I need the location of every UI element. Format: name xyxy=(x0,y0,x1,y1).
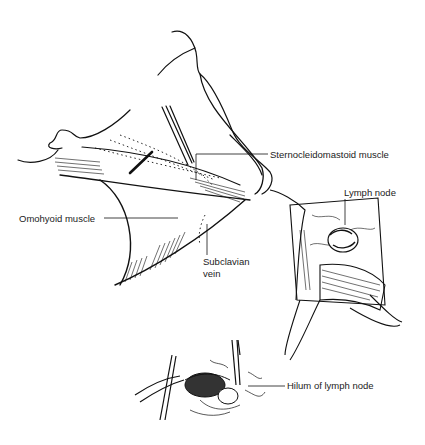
label-hilum: Hilum of lymph node xyxy=(287,380,374,391)
label-lymph-node: Lymph node xyxy=(344,187,396,198)
illustration-canvas: Sternocleidomastoid muscle Lymph node Om… xyxy=(0,0,425,445)
label-omohyoid: Omohyoid muscle xyxy=(19,213,95,224)
label-subclavian: Subclavian xyxy=(203,256,249,267)
label-vein: vein xyxy=(203,268,220,279)
label-sternocleidomastoid: Sternocleidomastoid muscle xyxy=(270,149,389,160)
